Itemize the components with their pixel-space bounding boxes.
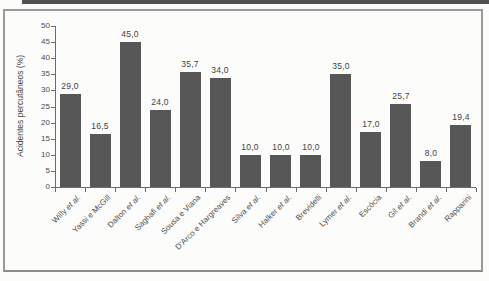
x-axis-tick — [235, 188, 236, 192]
bar — [180, 72, 201, 187]
y-tick-label: 15 — [24, 134, 50, 144]
x-axis-tick — [145, 188, 146, 192]
bar — [270, 155, 291, 187]
bar-value-label: 24,0 — [140, 96, 180, 108]
bar-value-label: 34,0 — [200, 64, 240, 76]
x-axis-tick — [205, 188, 206, 192]
y-tick-label: 45 — [24, 37, 50, 47]
y-axis-tick — [51, 26, 55, 27]
bar — [120, 42, 141, 187]
y-tick-label: 25 — [24, 102, 50, 112]
x-axis-tick — [476, 188, 477, 192]
bar — [450, 125, 471, 187]
bar-value-label: 16,5 — [80, 120, 120, 132]
y-tick-label: 20 — [24, 118, 50, 128]
bar — [60, 94, 81, 187]
y-axis-tick — [51, 171, 55, 172]
x-axis-tick — [446, 188, 447, 192]
bar — [390, 104, 411, 187]
x-axis-tick — [326, 188, 327, 192]
bar — [240, 155, 261, 187]
bar — [360, 132, 381, 187]
x-axis-tick — [55, 188, 56, 192]
x-axis-tick — [266, 188, 267, 192]
bar-value-label: 29,0 — [50, 80, 90, 92]
bar-value-label: 45,0 — [110, 28, 150, 40]
y-tick-label: 40 — [24, 53, 50, 63]
x-axis-tick — [356, 188, 357, 192]
y-axis-line — [55, 26, 56, 188]
y-axis-tick — [51, 42, 55, 43]
bar-chart: Acidentes percutâneos (%) 05101520253035… — [0, 0, 489, 281]
bar-value-label: 8,0 — [411, 147, 451, 159]
y-tick-label: 35 — [24, 69, 50, 79]
x-axis-tick — [296, 188, 297, 192]
y-axis-tick — [51, 155, 55, 156]
y-axis-tick — [51, 107, 55, 108]
bar — [330, 74, 351, 187]
x-axis-tick — [386, 188, 387, 192]
bar — [210, 78, 231, 187]
bar-value-label: 25,7 — [381, 90, 421, 102]
x-axis-tick — [175, 188, 176, 192]
bar-value-label: 19,4 — [441, 111, 481, 123]
y-axis-tick — [51, 139, 55, 140]
y-tick-label: 30 — [24, 85, 50, 95]
bar-value-label: 17,0 — [351, 118, 391, 130]
bar — [420, 161, 441, 187]
bar — [300, 155, 321, 187]
y-tick-label: 0 — [24, 182, 50, 192]
x-axis-tick — [85, 188, 86, 192]
y-axis-tick — [51, 74, 55, 75]
bar — [150, 110, 171, 187]
y-tick-label: 10 — [24, 150, 50, 160]
x-axis-tick — [416, 188, 417, 192]
y-axis-tick — [51, 123, 55, 124]
y-tick-label: 5 — [24, 166, 50, 176]
bar-value-label: 35,0 — [321, 60, 361, 72]
bar — [90, 134, 111, 187]
y-axis-tick — [51, 58, 55, 59]
x-axis-tick — [115, 188, 116, 192]
y-tick-label: 50 — [24, 21, 50, 31]
bar-value-label: 10,0 — [291, 141, 331, 153]
